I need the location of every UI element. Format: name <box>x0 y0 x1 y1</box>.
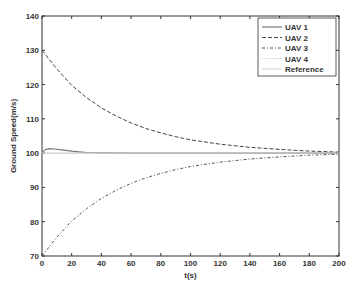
y-tick-label: 110 <box>26 115 39 124</box>
x-tick-label: 60 <box>127 259 136 268</box>
x-tick-label: 200 <box>332 259 346 268</box>
x-tick-label: 40 <box>97 259 106 268</box>
y-tick-label: 70 <box>30 252 39 261</box>
series-line <box>42 149 339 153</box>
x-tick-label: 120 <box>214 259 228 268</box>
line-chart: 0204060801001201401601802007080901001101… <box>0 0 359 290</box>
legend-entry: UAV 3 <box>285 44 309 53</box>
x-tick-label: 160 <box>273 259 287 268</box>
x-tick-label: 0 <box>40 259 45 268</box>
y-tick-label: 140 <box>26 12 40 21</box>
x-tick-label: 100 <box>184 259 198 268</box>
legend-entry: UAV 2 <box>285 34 309 43</box>
x-tick-label: 80 <box>156 259 165 268</box>
y-tick-label: 90 <box>30 183 39 192</box>
y-tick-label: 130 <box>26 46 40 55</box>
series-line <box>42 154 339 256</box>
legend-entry: Reference <box>285 65 324 74</box>
y-axis-label: Ground Speed(m/s) <box>9 99 18 174</box>
legend-entry: UAV 4 <box>285 55 309 64</box>
x-tick-label: 20 <box>67 259 76 268</box>
legend-entry: UAV 1 <box>285 23 309 32</box>
x-tick-label: 180 <box>303 259 317 268</box>
x-axis-label: t(s) <box>184 271 197 280</box>
y-tick-label: 100 <box>26 149 40 158</box>
x-tick-label: 140 <box>243 259 257 268</box>
y-tick-label: 80 <box>30 218 39 227</box>
y-tick-label: 120 <box>26 81 40 90</box>
